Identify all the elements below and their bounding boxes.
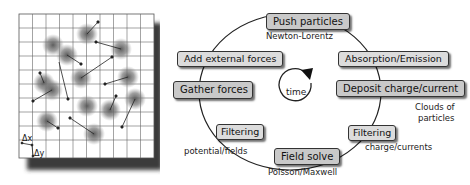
- label-poisson-maxwell: Poisson/Maxwell: [268, 167, 337, 177]
- label-newton-lorentz: Newton-Lorentz: [266, 31, 333, 41]
- time-arrow-head-icon: [301, 68, 313, 80]
- label-clouds-of: Clouds of: [415, 102, 455, 112]
- step-deposit-charge-current: Deposit charge/current: [336, 80, 465, 97]
- step-filtering-charge: Filtering: [348, 125, 396, 141]
- time-label: time: [286, 87, 306, 97]
- step-absorption-emission: Absorption/Emission: [338, 51, 449, 67]
- label-potential-fields: potential/fields: [184, 146, 247, 156]
- label-particles: particles: [418, 113, 455, 123]
- step-gather-forces: Gather forces: [173, 81, 253, 99]
- step-filtering-fields: Filtering: [216, 124, 264, 140]
- step-add-external-forces: Add external forces: [177, 51, 283, 67]
- step-field-solve: Field solve: [274, 148, 340, 165]
- label-charge-currents: charge/currents: [365, 142, 432, 152]
- step-push-particles: Push particles: [266, 13, 350, 30]
